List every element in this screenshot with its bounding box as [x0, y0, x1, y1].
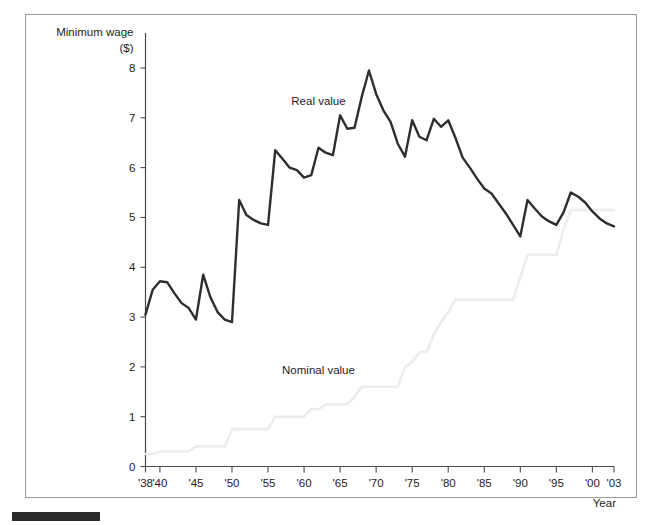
y-axis-caption-line1: Minimum wage	[56, 26, 133, 38]
minimum-wage-line-chart: 012345678'38'40'45'50'55'60'65'70'75'80'…	[0, 0, 649, 525]
series-group	[146, 70, 615, 454]
real-value-line	[146, 70, 615, 322]
x-tick-label: '40	[152, 477, 167, 489]
y-tick-label: 7	[129, 112, 135, 124]
chart-figure: 012345678'38'40'45'50'55'60'65'70'75'80'…	[0, 0, 649, 525]
x-tick-label: '50	[224, 477, 239, 489]
x-tick-label: '80	[441, 477, 456, 489]
y-tick-label: 6	[129, 162, 135, 174]
x-tick-label: '85	[477, 477, 492, 489]
x-tick-label: '55	[261, 477, 276, 489]
y-tick-label: 4	[129, 261, 136, 273]
x-tick-label: '95	[549, 477, 564, 489]
x-tick-label: '00	[585, 477, 600, 489]
x-tick-label: '45	[188, 477, 203, 489]
y-tick-label: 5	[129, 211, 135, 223]
x-axis-caption: Year	[593, 497, 616, 509]
x-tick-label: '03	[607, 477, 622, 489]
y-tick-label: 3	[129, 311, 135, 323]
x-tick-label: '75	[405, 477, 420, 489]
x-tick-label: '65	[333, 477, 348, 489]
x-tick-label: '70	[369, 477, 384, 489]
y-axis-caption-line2: ($)	[119, 42, 133, 54]
y-tick-label: 2	[129, 361, 135, 373]
nominal-value-label: Nominal value	[282, 364, 355, 376]
y-tick-label: 0	[129, 461, 135, 473]
axes-group: 012345678'38'40'45'50'55'60'65'70'75'80'…	[129, 33, 621, 489]
y-tick-label: 8	[129, 62, 135, 74]
y-tick-label: 1	[129, 411, 135, 423]
real-value-label: Real value	[291, 95, 345, 107]
x-tick-label: '90	[513, 477, 528, 489]
labels-group: Minimum wage($)YearReal valueNominal val…	[56, 26, 616, 509]
nominal-value-line	[146, 210, 615, 454]
x-tick-label: '38	[138, 477, 153, 489]
x-tick-label: '60	[297, 477, 312, 489]
